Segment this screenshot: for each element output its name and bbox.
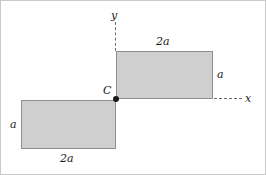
upper-right-rectangle [116,51,213,99]
y-axis-dashed-line [115,22,116,51]
figure-canvas: y x C 2a a a 2a [1,1,266,175]
y-axis-label: y [111,10,117,21]
lower-rectangle-width-label: 2a [60,153,74,164]
upper-rectangle-height-label: a [217,69,224,80]
centroid-point-marker [113,96,119,102]
upper-rectangle-width-label: 2a [156,36,170,47]
figure-container: y x C 2a a a 2a [0,0,266,175]
x-axis-dashed-line [214,98,242,99]
lower-left-rectangle [21,100,116,149]
x-axis-label: x [245,93,251,104]
lower-rectangle-height-label: a [10,119,17,130]
centroid-label: C [103,85,111,96]
